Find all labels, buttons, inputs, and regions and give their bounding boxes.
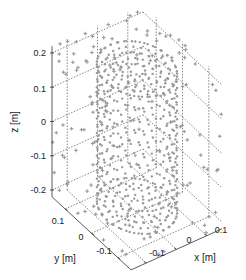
data-point: [148, 100, 150, 102]
data-point: [152, 113, 154, 115]
data-point: [169, 183, 171, 185]
data-point: [120, 215, 122, 217]
data-point: [105, 68, 107, 70]
data-point: [135, 221, 137, 223]
data-point: [173, 130, 175, 132]
data-point: [138, 187, 140, 189]
data-point: [147, 90, 149, 92]
data-point: [134, 194, 136, 196]
data-points: [51, 10, 223, 257]
data-point: [99, 84, 101, 86]
data-point: [154, 88, 156, 90]
data-point: [105, 58, 107, 60]
data-point: [139, 75, 141, 77]
data-point: [120, 202, 122, 204]
data-point: [105, 195, 107, 197]
data-point: [173, 107, 175, 109]
data-point: [103, 116, 105, 118]
data-point: [176, 132, 178, 134]
data-point: [112, 63, 114, 65]
data-point: [133, 197, 135, 199]
data-point: [124, 127, 126, 129]
data-point: [174, 65, 176, 67]
data-point: [104, 47, 106, 49]
data-point: [154, 197, 156, 199]
data-point: [175, 124, 177, 126]
data-point: [122, 208, 124, 210]
data-point: [174, 93, 176, 95]
data-point: [96, 186, 98, 188]
data-point: [119, 54, 121, 56]
data-point: [149, 96, 151, 98]
data-point: [125, 108, 127, 110]
data-point: [97, 138, 99, 140]
data-point: [173, 166, 175, 168]
data-point: [139, 41, 141, 43]
z-axis-label: z [m]: [9, 111, 20, 133]
data-point: [96, 194, 98, 196]
data-point: [110, 44, 112, 46]
data-point: [109, 187, 111, 189]
data-point: [176, 72, 178, 74]
data-point: [141, 52, 143, 54]
data-point: [176, 212, 178, 214]
data-point: [125, 46, 127, 48]
data-point: [115, 211, 117, 213]
data-point: [133, 152, 135, 154]
data-point: [133, 232, 135, 234]
data-point: [112, 132, 114, 134]
data-point: [173, 189, 175, 191]
data-point: [174, 184, 176, 186]
data-point: [138, 232, 140, 234]
data-point: [110, 89, 112, 91]
data-point: [97, 192, 99, 194]
data-point: [109, 96, 111, 98]
y-tick-label: 0.1: [52, 216, 65, 226]
data-point: [134, 78, 136, 80]
data-point: [164, 219, 166, 221]
data-point: [107, 211, 109, 213]
data-point: [154, 53, 156, 55]
data-point: [176, 164, 178, 166]
data-point: [121, 52, 123, 54]
data-point: [146, 141, 148, 143]
data-point: [151, 205, 153, 207]
x-tick-label: 0.1: [215, 225, 228, 235]
data-point: [160, 140, 162, 142]
data-point: [167, 215, 169, 217]
data-point: [141, 73, 143, 75]
data-point: [175, 89, 177, 91]
data-point: [165, 193, 167, 195]
data-point: [96, 197, 98, 199]
data-point: [139, 98, 141, 100]
data-point: [112, 68, 114, 70]
data-point: [176, 75, 178, 77]
data-point: [117, 64, 119, 66]
data-point: [142, 202, 144, 204]
data-point: [131, 63, 133, 65]
data-point: [101, 84, 103, 86]
data-point: [142, 195, 144, 197]
data-point: [127, 82, 129, 84]
data-point: [109, 141, 111, 143]
data-point: [176, 126, 178, 128]
data-point: [176, 103, 178, 105]
data-point: [123, 40, 125, 42]
data-point: [114, 195, 116, 197]
z-tick-label: -0.2: [30, 185, 46, 195]
data-point: [103, 139, 105, 141]
data-point: [155, 140, 157, 142]
data-point: [139, 121, 141, 123]
data-point: [96, 126, 98, 128]
data-point: [98, 208, 100, 210]
data-point: [139, 178, 141, 180]
data-point: [112, 187, 114, 189]
data-point: [147, 227, 149, 229]
data-point: [134, 177, 136, 179]
data-point: [175, 112, 177, 114]
data-point: [134, 57, 136, 59]
data-point: [142, 153, 144, 155]
data-point: [176, 178, 178, 180]
data-point: [96, 178, 98, 180]
data-point: [111, 223, 113, 225]
